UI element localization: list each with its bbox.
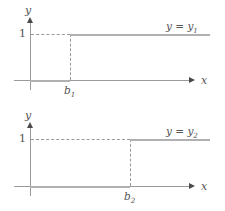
curve-label-top: y = y1 [166, 21, 198, 34]
threshold-label-top: b1 [64, 85, 75, 98]
curve-label-sub-bottom: 2 [193, 131, 198, 140]
guide-horizontal-bottom [31, 139, 130, 140]
curve-label-main-bottom: y = y [166, 125, 193, 137]
x-axis-label-top: x [201, 75, 207, 86]
y-axis-label-bottom: y [25, 110, 31, 121]
curve-label-sub-top: 1 [193, 26, 198, 35]
threshold-label-bottom: b2 [124, 191, 135, 204]
x-axis-arrowhead-top [189, 77, 195, 83]
guide-vertical-bottom [130, 139, 131, 186]
y-tick-label-one-top: 1 [19, 28, 26, 39]
y-axis-arrowhead-bottom [27, 122, 33, 128]
x-axis-label-bottom: x [201, 181, 207, 192]
y-axis-arrowhead-top [27, 17, 33, 23]
threshold-main-bottom: b [124, 190, 131, 202]
guide-vertical-top [70, 34, 71, 80]
threshold-main-top: b [64, 84, 71, 96]
chart-panel-bottom: x y 1 y = y2 b2 [0, 105, 225, 210]
y-axis-label-top: y [25, 5, 31, 16]
chart-panel-top: x y 1 y = y1 b1 [0, 0, 225, 105]
x-axis-arrowhead-bottom [189, 183, 195, 189]
threshold-sub-bottom: 2 [131, 196, 136, 205]
step-segment-low-bottom [30, 186, 130, 188]
step-segment-high-bottom [130, 139, 210, 141]
curve-label-bottom: y = y2 [166, 126, 198, 139]
curve-label-main-top: y = y [166, 20, 193, 32]
step-segment-high-top [70, 34, 210, 36]
step-segment-low-top [30, 80, 70, 82]
y-tick-label-one-bottom: 1 [19, 133, 26, 144]
guide-horizontal-top [31, 34, 70, 35]
step-functions-figure: x y 1 y = y1 b1 x y 1 [0, 0, 225, 211]
threshold-sub-top: 1 [71, 90, 76, 99]
